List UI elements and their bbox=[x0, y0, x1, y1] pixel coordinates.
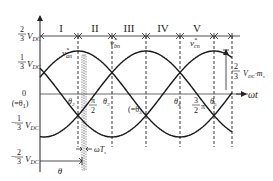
svg-text:VDC: VDC bbox=[25, 120, 40, 131]
svg-text:ωTs: ωTs bbox=[94, 145, 106, 155]
svg-text:3: 3 bbox=[17, 157, 21, 166]
sector-label-3: III bbox=[124, 22, 135, 34]
sector-label-4: IV bbox=[157, 22, 169, 34]
y-label-pos-two-thirds: 2 3 VDC bbox=[18, 25, 42, 43]
svg-text:v*bn: v*bn bbox=[110, 37, 120, 49]
svg-text:θ: θ bbox=[58, 166, 63, 176]
svg-text:(=θ1): (=θ1) bbox=[12, 99, 29, 109]
y-label-neg-one-third: − 1 3 VDC bbox=[11, 114, 40, 132]
curve-label-bn: v*bn bbox=[110, 37, 120, 49]
x-label-theta5: θ5 bbox=[210, 97, 217, 107]
svg-text:−: − bbox=[11, 118, 16, 127]
diagram-canvas: I II III IV V v*an v*bn v*cn 2 3 VDC 1 3… bbox=[0, 0, 273, 181]
svg-text:VDC: VDC bbox=[25, 154, 40, 165]
svg-text:−: − bbox=[11, 152, 16, 161]
svg-text:2: 2 bbox=[194, 106, 198, 115]
amplitude-label: 2 3 VDC·ms bbox=[232, 62, 265, 81]
svg-text:2: 2 bbox=[20, 25, 24, 34]
y-label-pos-one-third: 1 3 VDC bbox=[18, 53, 42, 71]
svg-text:π: π bbox=[91, 96, 95, 105]
svg-text:v*an: v*an bbox=[62, 47, 72, 59]
x-axis-label: ωt bbox=[248, 89, 258, 100]
sector-label-1: I bbox=[59, 22, 63, 34]
svg-text:1: 1 bbox=[20, 53, 24, 62]
x-label-pi-half: π 2 bbox=[89, 96, 97, 115]
svg-text:3: 3 bbox=[20, 62, 24, 71]
svg-text:2: 2 bbox=[234, 62, 238, 71]
svg-text:π: π bbox=[201, 102, 205, 111]
svg-text:2: 2 bbox=[17, 148, 21, 157]
svg-text:VDC·ms: VDC·ms bbox=[243, 69, 265, 79]
x-label-three-half-pi: 3 2 π bbox=[192, 96, 205, 115]
svg-text:0: 0 bbox=[22, 89, 26, 98]
theta-bracket: θ bbox=[40, 157, 82, 176]
sector-label-5: V bbox=[193, 22, 201, 34]
sector-label-2: II bbox=[91, 22, 99, 34]
y-label-zero: 0 (=θ1) bbox=[12, 89, 29, 109]
svg-text:3: 3 bbox=[194, 96, 198, 105]
svg-text:v*cn: v*cn bbox=[190, 37, 200, 49]
x-label-theta3: θ3 bbox=[103, 97, 110, 107]
curve-label-an: v*an bbox=[62, 47, 72, 59]
svg-text:3: 3 bbox=[20, 34, 24, 43]
x-label-theta2: θ2 bbox=[68, 97, 75, 107]
svg-text:3: 3 bbox=[17, 123, 21, 132]
omega-ts-strip bbox=[82, 55, 86, 170]
curve-label-cn: v*cn bbox=[190, 37, 200, 49]
omega-ts-bracket: ωTs bbox=[76, 145, 106, 155]
y-label-neg-two-thirds: − 2 3 VDC bbox=[11, 148, 40, 166]
svg-text:1: 1 bbox=[17, 114, 21, 123]
svg-text:3: 3 bbox=[234, 72, 238, 81]
svg-text:2: 2 bbox=[91, 106, 95, 115]
x-label-theta3-eq: (=θ3 bbox=[128, 105, 142, 115]
